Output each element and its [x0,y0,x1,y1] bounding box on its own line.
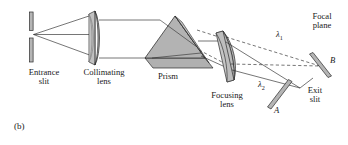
lambda-2-subscript: 2 [262,84,265,91]
lambda1-converging-rays [226,37,320,66]
focal-plane-bar-upper [310,53,332,78]
label-focusing-lens: Focusing lens [196,91,258,110]
entrance-slit-icon [30,12,34,62]
figure-panel-b: Entrance slit Collimating lens Prism Foc… [0,0,348,145]
lambda2-converging-rays [226,42,313,88]
label-exit-slit: Exit slit [296,86,334,105]
label-prism: Prism [145,72,191,81]
label-focal-plane: Focal plane [302,12,342,31]
prism-icon [145,16,213,68]
focusing-lens-icon [216,31,236,82]
label-lambda-1: λ1 [276,30,283,41]
collimating-lens-icon [89,11,100,65]
label-lambda-2: λ2 [258,80,265,91]
focal-plane-bar-lower [268,80,293,110]
label-entrance-slit: Entrance slit [14,68,74,87]
panel-label: (b) [14,122,25,132]
lambda-1-subscript: 1 [280,34,283,41]
label-collimating-lens: Collimating lens [70,68,138,87]
label-point-b: B [330,56,335,65]
label-point-a: A [274,106,279,115]
diverging-rays [34,14,96,57]
